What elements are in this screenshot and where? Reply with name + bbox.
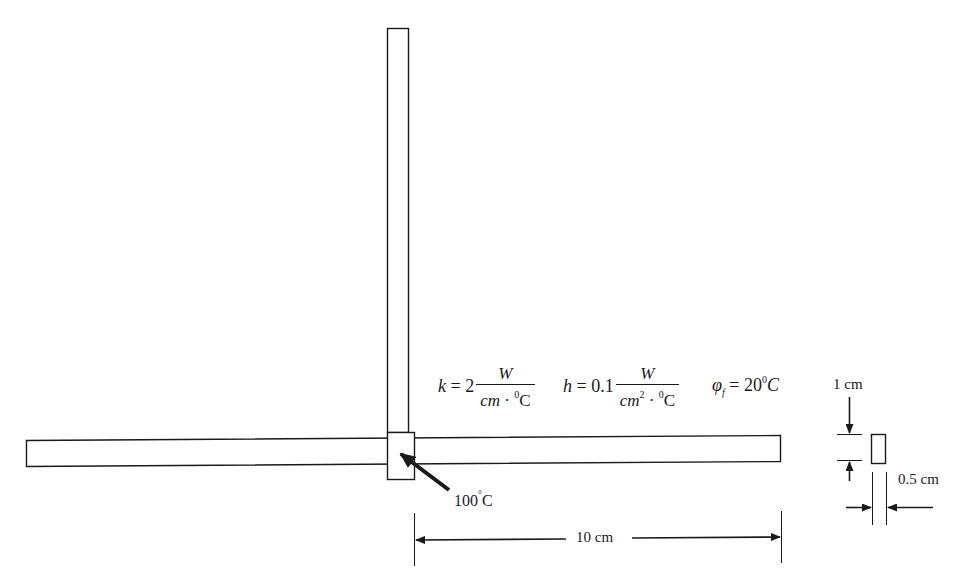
phi-value: = 20 — [729, 375, 762, 395]
base-temperature-label: 100°C — [454, 489, 493, 510]
h-numerator: W — [636, 364, 658, 384]
h-value: = 0.1 — [577, 376, 614, 396]
param-k: k = 2 W cm · 0C — [438, 364, 537, 411]
param-phi: φf = 200C — [712, 374, 779, 398]
phi-symbol: φ — [712, 375, 722, 395]
phi-unit: C — [767, 375, 779, 395]
dim-right-arrow — [632, 537, 780, 538]
h-denominator: cm2 · 0C — [616, 384, 679, 411]
dim-left-arrow — [416, 539, 566, 540]
cross-section — [872, 435, 886, 464]
k-symbol: k — [438, 376, 446, 396]
vertical-fin — [388, 29, 409, 433]
height-dimension-label: 1 cm — [833, 376, 863, 393]
h-symbol: h — [563, 376, 572, 396]
k-denominator: cm · 0C — [476, 384, 534, 411]
length-dimension-label: 10 cm — [576, 529, 613, 546]
thickness-dimension-label: 0.5 cm — [898, 471, 939, 488]
param-h: h = 0.1 W cm2 · 0C — [563, 364, 681, 411]
h-fraction: W cm2 · 0C — [616, 364, 679, 411]
k-fraction: W cm · 0C — [476, 364, 534, 411]
k-numerator: W — [494, 364, 516, 384]
k-value: = 2 — [451, 376, 475, 396]
phi-subscript: f — [722, 387, 725, 398]
